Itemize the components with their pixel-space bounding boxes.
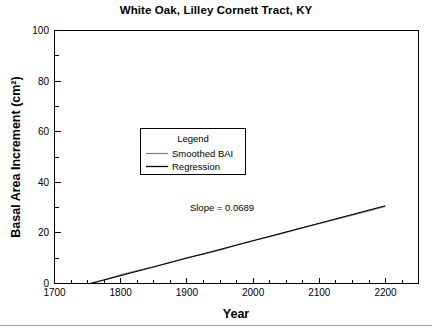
x-axis-title: Year (223, 307, 250, 321)
legend: Legend Smoothed BAI Regression (141, 129, 246, 175)
x-tick-label: 2200 (374, 287, 397, 298)
x-axis-minor-ticks (71, 280, 419, 284)
y-tick-label: 100 (32, 25, 49, 36)
chart-figure: White Oak, Lilley Cornett Tract, KY 0 20… (0, 0, 432, 333)
plot-canvas: 0 20 40 60 80 100 (0, 0, 432, 333)
y-tick-label: 60 (38, 126, 50, 137)
series-line-regression (91, 206, 386, 284)
footer-divider (0, 325, 432, 326)
y-tick-labels: 0 20 40 60 80 100 (32, 25, 49, 289)
x-tick-label: 2000 (242, 287, 265, 298)
slope-annotation: Slope = 0.0689 (190, 202, 254, 213)
legend-label-regression: Regression (172, 161, 220, 172)
y-tick-label: 80 (38, 76, 50, 87)
x-tick-label: 2100 (308, 287, 331, 298)
legend-label-smoothed-bai: Smoothed BAI (172, 148, 233, 159)
y-axis-title: Basal Area Increment (cm²) (9, 76, 23, 237)
y-axis-minor-ticks (55, 56, 59, 258)
y-tick-label: 40 (38, 177, 50, 188)
x-tick-label: 1800 (110, 287, 133, 298)
legend-title: Legend (177, 133, 209, 144)
y-tick-label: 20 (38, 227, 50, 238)
x-tick-labels: 1700 1800 1900 2000 2100 2200 (43, 287, 397, 298)
x-tick-label: 1700 (43, 287, 66, 298)
x-tick-label: 1900 (176, 287, 199, 298)
